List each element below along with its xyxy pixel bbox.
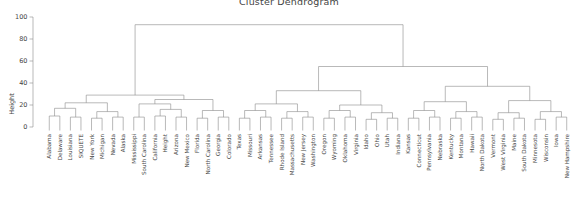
dendrogram-link <box>197 118 208 127</box>
dendrogram-link <box>509 101 551 113</box>
leaf-label: Pennsylvania <box>426 134 433 171</box>
leaf-label: Georgia <box>215 134 222 156</box>
leaf-label: Maine <box>511 133 517 150</box>
leaf-label: Louisiana <box>67 134 73 160</box>
dendrogram-link <box>303 117 314 127</box>
leaf-label: Oklahoma <box>342 134 348 162</box>
dendrogram-link <box>218 117 229 127</box>
dendrogram-link <box>260 117 271 127</box>
leaf-label: Michigan <box>99 134 106 160</box>
y-tick-label: 100 <box>15 13 27 21</box>
leaf-label: Vermont <box>490 133 496 157</box>
leaf-label: Arizona <box>173 134 179 155</box>
leaf-label: Indiana <box>395 134 401 155</box>
y-axis: 020406080100 <box>15 13 33 131</box>
dendrogram-link <box>139 104 171 117</box>
dendrogram-link <box>92 118 103 127</box>
dendrogram-link <box>366 119 377 127</box>
leaf-label: Massachusetts <box>289 134 295 175</box>
leaf-label: Nevada <box>110 134 116 155</box>
leaf-label: Height <box>162 133 169 152</box>
dendrogram-link <box>556 117 567 127</box>
dendrogram-links <box>49 25 566 127</box>
leaf-label: Montana <box>458 134 464 158</box>
dendrogram-link <box>282 118 293 127</box>
dendrogram-link <box>340 105 382 113</box>
leaf-label: Oregon <box>321 134 328 155</box>
leaf-label: Minnesota <box>532 134 538 163</box>
leaf-label: Alabama <box>46 134 52 159</box>
leaf-label: Kansas <box>405 134 411 154</box>
leaf-label: Utah <box>384 134 390 148</box>
leaf-label: California <box>152 134 158 161</box>
dendrogram-link <box>535 119 546 127</box>
dendrogram-link <box>493 119 504 127</box>
dendrogram-link <box>445 86 529 101</box>
dendrogram-link <box>155 100 213 111</box>
dendrogram-link <box>176 117 187 127</box>
dendrogram-link <box>65 103 107 112</box>
y-tick-label: 0 <box>23 123 27 131</box>
dendrogram-link <box>540 112 561 120</box>
leaf-label: Missouri <box>247 134 253 157</box>
dendrogram-link <box>276 91 360 105</box>
leaf-label: Virginia <box>353 134 360 155</box>
leaf-label: Alaska <box>120 134 126 152</box>
dendrogram-link <box>345 117 356 127</box>
leaf-label: Idaho <box>363 133 369 149</box>
y-tick-label: 20 <box>19 101 27 109</box>
leaf-label: West Virginia <box>500 134 507 171</box>
leaf-label: Connecticut <box>416 133 422 167</box>
leaf-label: Wyoming <box>331 134 338 161</box>
dendrogram-link <box>472 117 483 127</box>
leaf-label: SIQUETE <box>78 134 84 159</box>
leaf-label: Washington <box>310 134 317 167</box>
leaf-label: South Dakota <box>521 134 527 172</box>
leaf-label: Delaware <box>57 133 63 160</box>
leaf-label: Wisconsin <box>543 134 549 162</box>
leaf-labels: AlabamaDelawareLouisianaSIQUETENew YorkM… <box>46 127 570 178</box>
y-tick-label: 40 <box>19 79 27 87</box>
dendrogram-plot: 020406080100 AlabamaDelawareLouisianaSIQ… <box>0 0 578 208</box>
leaf-label: Tennessee <box>268 133 274 164</box>
leaf-label: Florida <box>194 134 200 153</box>
leaf-label: New Jersey <box>300 133 307 165</box>
dendrogram-link <box>429 117 440 127</box>
leaf-label: Colorado <box>226 133 232 159</box>
dendrogram-link <box>387 118 398 127</box>
dendrogram-figure: Cluster Dendrogram Height 020406080100 A… <box>0 0 578 208</box>
leaf-label: Iowa <box>553 134 559 147</box>
leaf-label: New Mexico <box>184 133 190 167</box>
dendrogram-link <box>239 118 250 127</box>
dendrogram-link <box>135 25 403 95</box>
dendrogram-link <box>424 102 466 112</box>
leaf-label: Arkansas <box>257 134 263 160</box>
leaf-label: New Hampshire <box>564 133 571 178</box>
leaf-label: North Dakota <box>479 134 485 171</box>
leaf-label: Kentucky <box>448 133 455 159</box>
leaf-label: Rhode Island <box>279 134 285 171</box>
dendrogram-link <box>451 118 462 127</box>
dendrogram-link <box>408 118 419 127</box>
leaf-label: South Carolina <box>141 134 147 175</box>
dendrogram-link <box>319 67 488 91</box>
y-tick-label: 80 <box>19 35 27 43</box>
leaf-label: Nebraska <box>437 134 443 160</box>
y-tick-label: 60 <box>19 57 27 65</box>
dendrogram-link <box>134 117 145 127</box>
dendrogram-link <box>514 118 525 127</box>
dendrogram-link <box>70 117 81 127</box>
dendrogram-link <box>155 116 166 127</box>
dendrogram-link <box>113 117 124 127</box>
dendrogram-link <box>49 116 60 127</box>
leaf-label: Mississippi <box>131 134 138 164</box>
leaf-label: Texas <box>236 134 242 151</box>
leaf-label: North Carolina <box>205 134 211 174</box>
dendrogram-link <box>86 95 184 103</box>
leaf-label: New York <box>89 133 95 159</box>
leaf-label: Ohio <box>374 133 380 147</box>
dendrogram-link <box>324 118 335 127</box>
leaf-label: Hawaii <box>469 134 475 153</box>
